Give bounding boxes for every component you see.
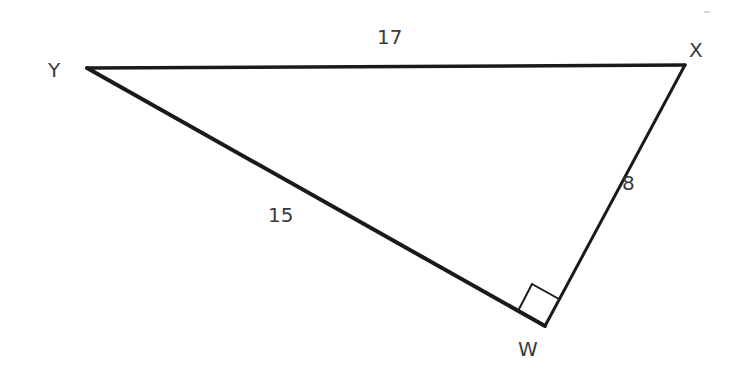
vertex-label-w: W [518,337,538,361]
artifact-mark [704,11,710,13]
side-yw [87,68,545,326]
side-yx [87,65,685,68]
side-label-wx: 8 [622,171,635,195]
side-wx [545,65,685,326]
right-angle-marker [518,284,559,311]
vertex-label-y: Y [47,58,61,82]
side-label-yw: 15 [268,203,293,227]
vertex-label-x: X [689,38,703,62]
side-label-yx: 17 [377,25,402,49]
triangle-diagram: Y X W 17 15 8 [0,0,734,374]
